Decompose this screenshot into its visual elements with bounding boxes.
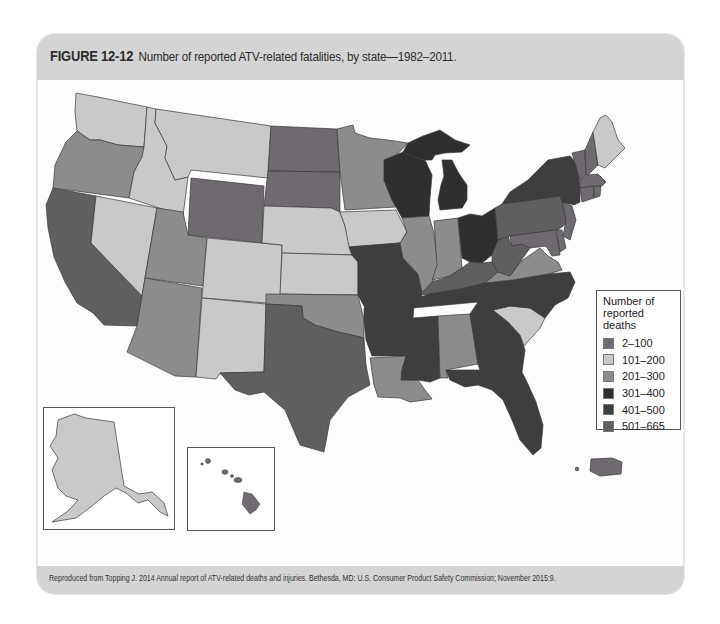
legend-swatch (603, 371, 614, 382)
legend-swatch (603, 354, 614, 365)
state-HI-oahu (222, 470, 228, 475)
state-WI (384, 152, 432, 218)
state-ME (593, 115, 625, 168)
legend-swatch (603, 338, 614, 349)
map-legend: Number of reported deaths 2–100 101–200 … (596, 290, 681, 430)
state-RI (594, 186, 601, 198)
state-ND (268, 126, 340, 172)
legend-swatch (603, 388, 614, 399)
legend-label: 201–300 (622, 370, 665, 382)
state-MI-lower (438, 160, 467, 210)
state-AK (50, 414, 168, 522)
state-HI-kauai (206, 459, 211, 464)
state-FL (446, 370, 543, 455)
state-KS (280, 253, 358, 295)
legend-item: 301–400 (603, 385, 674, 402)
legend-label: 301–400 (622, 387, 665, 399)
legend-item: 101–200 (603, 352, 674, 369)
hawaii-inset (187, 447, 275, 531)
state-MT (155, 109, 271, 180)
legend-swatch (603, 421, 614, 432)
state-NM (196, 298, 266, 379)
legend-item: 501–665 (603, 418, 674, 435)
legend-label: 2–100 (622, 337, 653, 349)
state-HI-maui (234, 478, 242, 483)
territory-PR-island (575, 467, 579, 471)
legend-label: 401–500 (622, 404, 665, 416)
legend-item: 2–100 (603, 335, 674, 352)
alaska-inset (43, 407, 175, 530)
legend-item: 401–500 (603, 401, 674, 418)
territory-PR (590, 458, 622, 476)
state-MI (403, 130, 470, 160)
state-HI-big-island (242, 492, 260, 514)
legend-swatch (603, 404, 614, 415)
state-CT (580, 186, 594, 202)
state-HI-molokai (231, 475, 234, 478)
state-NY (502, 156, 580, 205)
legend-item: 201–300 (603, 368, 674, 385)
legend-title: Number of reported deaths (603, 295, 674, 331)
state-HI-niihau (201, 463, 203, 465)
state-SD (264, 171, 340, 212)
legend-label: 101–200 (622, 354, 665, 366)
state-WY (188, 178, 264, 243)
state-IA (340, 210, 407, 247)
legend-label: 501–665 (622, 420, 665, 432)
